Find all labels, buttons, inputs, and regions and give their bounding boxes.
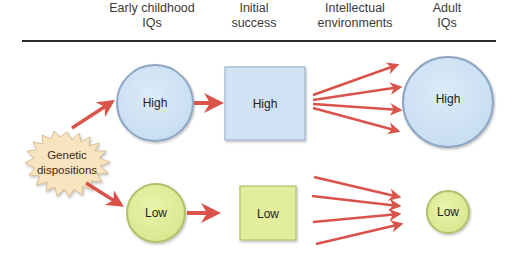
high-initial-success-label: High <box>253 97 278 111</box>
high-early-iq-label: High <box>143 96 168 110</box>
source-label-line1: Genetic <box>47 149 87 161</box>
arrow-high-env-4 <box>313 108 398 131</box>
diagram-canvas: Genetic dispositions High High High Low … <box>0 0 518 262</box>
low-initial-success-label: Low <box>257 207 279 221</box>
low-adult-iq-label: Low <box>437 205 459 219</box>
arrow-high-env-3 <box>313 104 400 110</box>
arrow-to-low-early <box>86 183 121 205</box>
low-early-iq-label: Low <box>145 206 167 220</box>
arrow-low-env-2 <box>312 196 399 206</box>
high-adult-iq-label: High <box>436 92 461 106</box>
low-environment-arrows <box>312 177 401 244</box>
source-label-line2: dispositions <box>37 164 97 176</box>
arrow-low-env-4 <box>316 224 401 244</box>
arrow-high-env-2 <box>313 87 400 100</box>
arrow-low-env-3 <box>313 214 399 222</box>
high-environment-arrows <box>313 65 400 131</box>
arrow-low-env-1 <box>314 177 399 197</box>
arrow-to-high-early <box>72 102 112 128</box>
